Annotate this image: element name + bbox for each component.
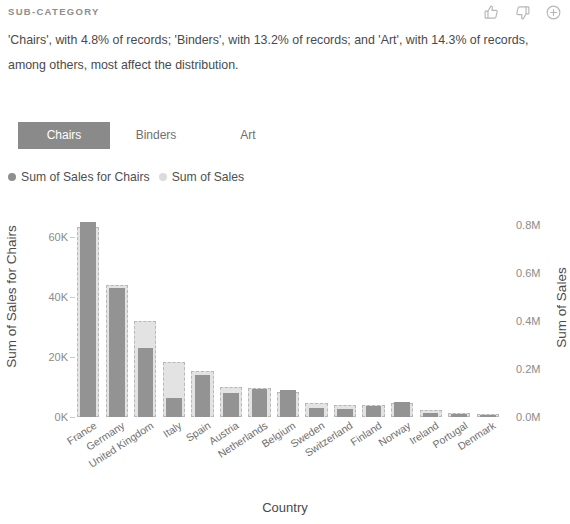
tab-art[interactable]: Art bbox=[202, 122, 294, 149]
bar-sum-of-sales-for-chairs[interactable] bbox=[451, 414, 467, 417]
insight-card: SUB-CATEGORY 'Chair bbox=[0, 0, 570, 524]
bar-sum-of-sales-for-chairs[interactable] bbox=[394, 402, 410, 417]
y-tick-right: 0.2M bbox=[508, 363, 558, 375]
plot-area bbox=[74, 207, 502, 417]
card-header: SUB-CATEGORY bbox=[8, 6, 562, 24]
bar-sum-of-sales-for-chairs[interactable] bbox=[337, 409, 353, 417]
y-tick-left: 60K bbox=[26, 231, 68, 243]
y-tick-right: 0.0M bbox=[508, 411, 558, 423]
bar-group[interactable] bbox=[106, 207, 128, 417]
x-tick-label: Finland bbox=[348, 419, 383, 448]
bar-group[interactable] bbox=[134, 207, 156, 417]
y-axis-right-ticks: 0.0M0.2M0.4M0.6M0.8M bbox=[508, 192, 550, 424]
bar-sum-of-sales-for-chairs[interactable] bbox=[80, 222, 96, 417]
thumbs-down-icon[interactable] bbox=[514, 4, 531, 21]
legend-label-chairs: Sum of Sales for Chairs bbox=[21, 170, 150, 184]
bar-group[interactable] bbox=[77, 207, 99, 417]
bar-group[interactable] bbox=[163, 207, 185, 417]
legend-item-sum-of-sales-for-chairs[interactable]: Sum of Sales for Chairs bbox=[8, 170, 150, 184]
bar-sum-of-sales-for-chairs[interactable] bbox=[138, 348, 154, 417]
y-tick-right: 0.8M bbox=[508, 219, 558, 231]
bar-group[interactable] bbox=[191, 207, 213, 417]
thumbs-up-icon[interactable] bbox=[483, 4, 500, 21]
bar-sum-of-sales-for-chairs[interactable] bbox=[109, 288, 125, 417]
bar-sum-of-sales-for-chairs[interactable] bbox=[480, 415, 496, 417]
bar-group[interactable] bbox=[220, 207, 242, 417]
bar-sum-of-sales-for-chairs[interactable] bbox=[309, 408, 325, 417]
x-axis-tick-labels: FranceGermanyUnited KingdomItalySpainAus… bbox=[74, 419, 502, 495]
subcategory-tabs: Chairs Binders Art bbox=[18, 122, 294, 149]
bar-group[interactable] bbox=[448, 207, 470, 417]
bar-sum-of-sales-for-chairs[interactable] bbox=[195, 375, 211, 417]
bar-group[interactable] bbox=[362, 207, 384, 417]
tab-binders[interactable]: Binders bbox=[110, 122, 202, 149]
y-tick-left: 0K bbox=[26, 411, 68, 423]
chart-legend: Sum of Sales for Chairs Sum of Sales bbox=[8, 170, 244, 184]
bar-sum-of-sales-for-chairs[interactable] bbox=[166, 398, 182, 418]
bar-group[interactable] bbox=[420, 207, 442, 417]
y-axis-left-ticks: 0K20K40K60K bbox=[26, 192, 68, 424]
insight-description: 'Chairs', with 4.8% of records; 'Binders… bbox=[8, 28, 552, 78]
x-tick-label: Norway bbox=[376, 419, 412, 448]
y-tick-right: 0.6M bbox=[508, 267, 558, 279]
bar-group[interactable] bbox=[277, 207, 299, 417]
y-tick-left: 20K bbox=[26, 351, 68, 363]
tab-chairs[interactable]: Chairs bbox=[18, 122, 110, 149]
bar-sum-of-sales-for-chairs[interactable] bbox=[223, 393, 239, 417]
bar-sum-of-sales-for-chairs[interactable] bbox=[252, 389, 268, 418]
bar-group[interactable] bbox=[248, 207, 270, 417]
y-tick-right: 0.4M bbox=[508, 315, 558, 327]
legend-label-sales: Sum of Sales bbox=[172, 170, 244, 184]
bar-group[interactable] bbox=[334, 207, 356, 417]
y-tickmark-left bbox=[70, 417, 75, 418]
legend-swatch-sales bbox=[159, 173, 167, 181]
bar-group[interactable] bbox=[305, 207, 327, 417]
add-circle-icon[interactable] bbox=[545, 4, 562, 21]
bar-sum-of-sales-for-chairs[interactable] bbox=[423, 413, 439, 418]
bar-group[interactable] bbox=[477, 207, 499, 417]
legend-swatch-chairs bbox=[8, 173, 16, 181]
bar-sum-of-sales-for-chairs[interactable] bbox=[280, 390, 296, 417]
x-tick-label: Italy bbox=[161, 419, 184, 440]
bar-group[interactable] bbox=[391, 207, 413, 417]
page-title: SUB-CATEGORY bbox=[8, 6, 562, 17]
x-axis-title: Country bbox=[0, 500, 570, 515]
bar-sum-of-sales-for-chairs[interactable] bbox=[366, 406, 382, 417]
y-axis-left-title: Sum of Sales for Chairs bbox=[2, 196, 20, 396]
y-tick-left: 40K bbox=[26, 291, 68, 303]
header-actions bbox=[483, 4, 562, 21]
legend-item-sum-of-sales[interactable]: Sum of Sales bbox=[159, 170, 244, 184]
